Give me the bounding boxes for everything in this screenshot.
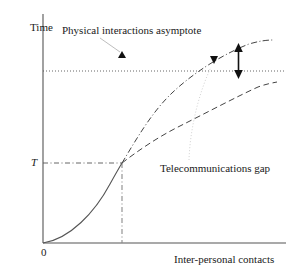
origin-tick-label-zero: 0 — [41, 247, 47, 258]
series-shared-growth-segment — [43, 163, 122, 243]
annotation-physical-interactions-asymptote: Physical interactions asymptote — [62, 25, 201, 36]
chart-canvas — [0, 0, 299, 276]
up-triangle-icon — [118, 51, 126, 58]
y-axis-tick-label-T: T — [31, 157, 37, 168]
series-telecommunications-curve — [122, 82, 277, 163]
series-physical-interactions-curve — [122, 40, 273, 163]
chart-figure: Time Inter-personal contacts T 0 Physica… — [0, 0, 299, 276]
axes — [43, 14, 286, 243]
leader-line-gap — [189, 67, 211, 160]
y-axis-title: Time — [30, 22, 53, 33]
annotation-telecommunications-gap: Telecommunications gap — [160, 163, 270, 174]
reference-lines — [43, 71, 284, 243]
annotation-leaders — [100, 38, 218, 160]
gap-arrow-head-down-icon — [234, 70, 243, 79]
leader-line-asymptote — [100, 38, 120, 52]
x-axis-title: Inter-personal contacts — [174, 254, 274, 265]
gap-measure-arrow — [234, 43, 243, 79]
